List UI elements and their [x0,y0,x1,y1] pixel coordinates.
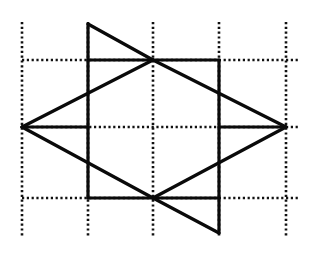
diagram-canvas [0,0,314,253]
bottom-triangle-hypotenuse [153,198,219,233]
top-triangle-hypotenuse [88,24,153,60]
dotted-grid [22,22,300,238]
geometry-diagram [0,0,314,253]
